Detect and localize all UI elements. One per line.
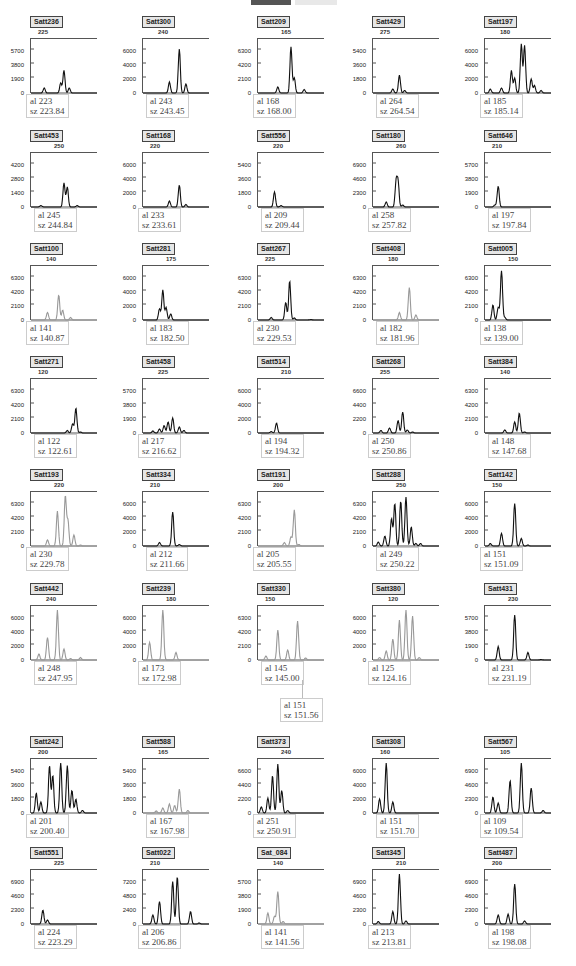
allele-value: al 223 (30, 96, 65, 106)
extra-allele-value: al 151 (284, 700, 319, 710)
extra-size-value: sz 151.56 (284, 710, 319, 720)
y-tick-label: 0 (229, 90, 251, 96)
allele-value: al 249 (380, 549, 415, 559)
marker-label: Satt142 (484, 469, 517, 481)
allele-value: al 230 (30, 549, 65, 559)
top-size-label: 140 (273, 860, 283, 866)
y-tick-label: 0 (114, 543, 136, 549)
allele-value: al 233 (142, 210, 177, 220)
y-tick-label: 4000 (456, 515, 478, 521)
y-tick-label: 0 (114, 204, 136, 210)
y-tick-label: 1400 (2, 190, 24, 196)
marker-label: Satt242 (30, 736, 63, 748)
marker-panel: Satt1682206000400020000al 233sz 233.61 (120, 130, 230, 248)
y-tick-label: 2000 (114, 303, 136, 309)
marker-label: Satt197 (484, 16, 517, 28)
y-tick-label: 4000 (114, 289, 136, 295)
y-tick-label: 6000 (114, 275, 136, 281)
y-tick-label: 4600 (2, 893, 24, 899)
top-size-label: 180 (166, 596, 176, 602)
trace-plot (484, 605, 551, 660)
y-tick-label: 1900 (2, 76, 24, 82)
y-tick-label: 0 (2, 430, 24, 436)
y-tick-label: 0 (344, 810, 366, 816)
marker-panel: Satt4292755400360018000al 264sz 264.54 (350, 16, 460, 134)
top-size-label: 225 (38, 29, 48, 35)
marker-label: Satt330 (257, 583, 290, 595)
top-size-label: 220 (150, 143, 160, 149)
trace-plot (142, 152, 209, 207)
top-size-label: 160 (380, 749, 390, 755)
y-tick-label: 0 (229, 810, 251, 816)
marker-label: Satt300 (142, 16, 175, 28)
y-tick-label: 0 (229, 317, 251, 323)
marker-label: Satt022 (142, 847, 175, 859)
y-tick-label: 2000 (344, 796, 366, 802)
allele-call-box: al 183sz 182.50 (146, 321, 189, 345)
marker-panel: Satt4532504200280014000al 245sz 244.84 (8, 130, 118, 248)
marker-panel: Satt1912006300420021000al 205sz 205.55 (235, 469, 345, 587)
marker-label: Satt271 (30, 356, 63, 368)
trace-plot (30, 758, 97, 813)
allele-value: al 243 (150, 96, 185, 106)
allele-call-box: al 198sz 198.08 (488, 925, 531, 949)
y-tick-label: 7200 (114, 879, 136, 885)
size-value: sz 185.14 (484, 106, 519, 116)
trace-plot (484, 758, 551, 813)
size-value: sz 172.98 (142, 673, 177, 683)
top-size-label: 175 (166, 256, 176, 262)
marker-label: Satt268 (372, 356, 405, 368)
y-tick-label: 5400 (229, 162, 251, 168)
trace-plot (142, 758, 209, 813)
y-tick-label: 0 (114, 90, 136, 96)
allele-call-box: al 125sz 124.16 (368, 661, 411, 685)
size-value: sz 147.68 (492, 446, 527, 456)
y-tick-label: 5400 (114, 768, 136, 774)
y-tick-label: 0 (229, 543, 251, 549)
allele-call-box: al 250sz 250.86 (368, 434, 411, 458)
y-tick-label: 0 (456, 543, 478, 549)
allele-value: al 141 (265, 927, 300, 937)
y-tick-label: 6000 (114, 501, 136, 507)
allele-call-box: al 231sz 231.19 (488, 661, 531, 685)
marker-label: Satt431 (484, 583, 517, 595)
y-tick-label: 2100 (456, 303, 478, 309)
top-size-label: 225 (265, 256, 275, 262)
marker-label: Satt646 (484, 130, 517, 142)
marker-panel: Satt5671056900460023000al 109sz 109.54 (462, 736, 572, 854)
top-size-label: 240 (46, 596, 56, 602)
size-value: sz 151.09 (484, 559, 519, 569)
top-tab-inactive[interactable] (295, 0, 337, 5)
top-tab-active[interactable] (251, 0, 291, 5)
y-tick-label: 2000 (344, 643, 366, 649)
y-tick-label: 0 (2, 90, 24, 96)
size-value: sz 151.70 (380, 826, 415, 836)
trace-plot (142, 38, 209, 93)
trace-plot (30, 605, 97, 660)
top-size-label: 230 (508, 596, 518, 602)
size-value: sz 229.53 (257, 333, 292, 343)
allele-call-box: al 224sz 223.29 (34, 925, 77, 949)
y-tick-label: 0 (114, 921, 136, 927)
y-tick-label: 2200 (344, 416, 366, 422)
y-tick-label: 0 (114, 657, 136, 663)
y-tick-label: 5700 (114, 388, 136, 394)
y-tick-label: 2100 (229, 303, 251, 309)
allele-value: al 151 (380, 816, 415, 826)
marker-panel: Satt3801206000400020000al 125sz 124.16 (350, 583, 460, 701)
y-tick-label: 1900 (114, 416, 136, 422)
y-tick-label: 4000 (456, 62, 478, 68)
y-tick-label: 6000 (2, 615, 24, 621)
y-tick-label: 6000 (344, 615, 366, 621)
y-tick-label: 2300 (344, 907, 366, 913)
y-tick-label: 3600 (2, 782, 24, 788)
allele-value: al 205 (257, 549, 292, 559)
y-tick-label: 2000 (456, 529, 478, 535)
y-tick-label: 4000 (2, 629, 24, 635)
trace-plot (257, 38, 324, 93)
y-tick-label: 3600 (114, 782, 136, 788)
marker-panel: Satt2711206300420021000al 122sz 122.61 (8, 356, 118, 474)
y-tick-label: 1900 (456, 643, 478, 649)
allele-call-box: al 138sz 139.00 (480, 321, 523, 345)
top-size-label: 105 (500, 749, 510, 755)
